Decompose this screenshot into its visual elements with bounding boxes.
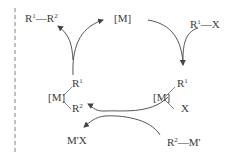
catalyst-label: [M] xyxy=(114,13,131,24)
tm-r1-label: R1 xyxy=(72,78,83,89)
tm-r2-label: R2 xyxy=(72,103,83,114)
oa-metal-label: [M] xyxy=(153,92,170,103)
reactant-1-label: R1—X xyxy=(190,19,220,30)
oa-x-label: X xyxy=(181,103,189,114)
product-label: R1—R2 xyxy=(25,13,58,24)
tm-metal-label: [M] xyxy=(48,92,65,103)
byproduct-label: M'X xyxy=(67,135,87,146)
reactant-2-label: R2—M' xyxy=(167,137,201,148)
oa-r1-label: R1 xyxy=(177,78,188,89)
